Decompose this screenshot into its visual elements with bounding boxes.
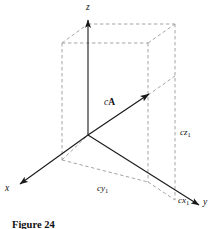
box-edge-tip-horizontal	[148, 76, 175, 95]
vector-cA-line	[88, 94, 149, 135]
box-edge-base-left	[62, 160, 148, 182]
axis-label-y: y	[203, 198, 207, 208]
vector-label-name: A	[108, 97, 115, 107]
component-label-cz1: cz1	[180, 128, 191, 137]
component-cx1-subscript: 1	[186, 199, 189, 206]
component-cy1-subscript: 1	[105, 187, 108, 194]
axis-label-z: z	[86, 3, 90, 13]
box-edge-top-left	[62, 24, 88, 43]
axis-label-x: x	[5, 184, 9, 194]
dashed-component-box	[62, 24, 175, 200]
vector-cA-arrow	[88, 94, 149, 135]
box-edge-base-right	[148, 182, 175, 200]
vector-label-cA: cA	[104, 98, 115, 108]
component-cz1-symbol: z	[184, 127, 188, 137]
vector-figure: z x y cA cz1 cy1 cx1 Figure 24	[0, 0, 219, 229]
component-label-cy1: cy1	[97, 184, 108, 193]
component-cz1-subscript: 1	[188, 131, 191, 138]
figure-caption: Figure 24	[12, 219, 55, 229]
component-label-cx1: cx1	[178, 196, 189, 205]
x-axis	[20, 135, 88, 184]
box-edge-base-front	[62, 135, 88, 160]
coordinate-axes	[20, 20, 199, 205]
box-edge-top-right	[148, 24, 175, 43]
vector-diagram-canvas	[0, 0, 219, 229]
